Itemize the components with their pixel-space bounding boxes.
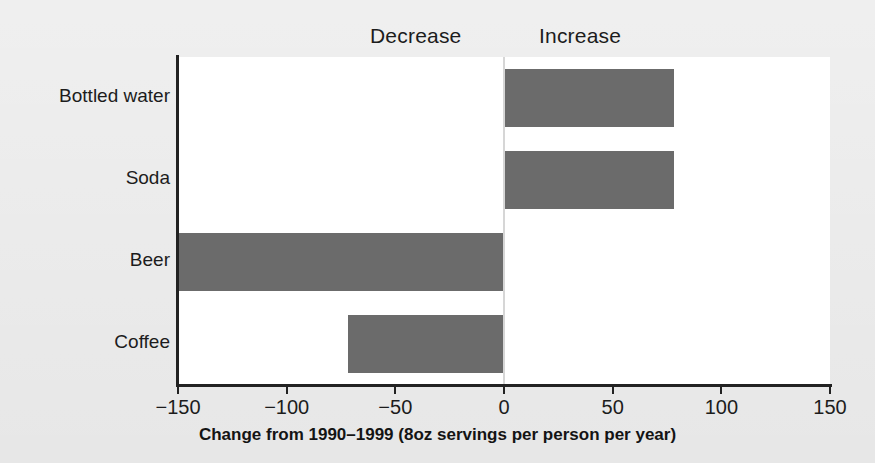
category-label-bottled-water: Bottled water xyxy=(59,85,170,107)
decrease-region-label: Decrease xyxy=(370,24,461,48)
x-tick-mark-150 xyxy=(829,385,831,394)
category-label-soda: Soda xyxy=(126,167,170,189)
x-axis-title: Change from 1990–1999 (8oz servings per … xyxy=(0,425,875,445)
increase-region-label: Increase xyxy=(539,24,621,48)
x-tick-label--150: −150 xyxy=(155,396,200,419)
x-tick-label--100: −100 xyxy=(264,396,309,419)
x-tick-mark-0 xyxy=(503,385,505,394)
x-tick-label-150: 150 xyxy=(813,396,846,419)
x-tick-mark-50 xyxy=(612,385,614,394)
x-tick-label-50: 50 xyxy=(602,396,624,419)
bar-beer xyxy=(178,233,504,291)
category-label-coffee: Coffee xyxy=(114,331,170,353)
x-tick-label-100: 100 xyxy=(705,396,738,419)
x-tick-label-0: 0 xyxy=(498,396,509,419)
x-tick-mark--100 xyxy=(286,385,288,394)
x-tick-mark-100 xyxy=(720,385,722,394)
bar-soda xyxy=(504,151,674,209)
bar-coffee xyxy=(348,315,504,373)
y-axis-spine xyxy=(176,55,179,387)
category-axis-labels: Bottled waterSodaBeerCoffee xyxy=(0,0,170,463)
bar-chart-figure: Decrease Increase Bottled waterSodaBeerC… xyxy=(0,0,875,463)
x-tick-label--50: −50 xyxy=(378,396,412,419)
zero-reference-line xyxy=(503,57,505,385)
x-tick-mark--50 xyxy=(394,385,396,394)
category-label-beer: Beer xyxy=(130,249,170,271)
x-tick-mark--150 xyxy=(177,385,179,394)
bar-bottled-water xyxy=(504,69,674,127)
